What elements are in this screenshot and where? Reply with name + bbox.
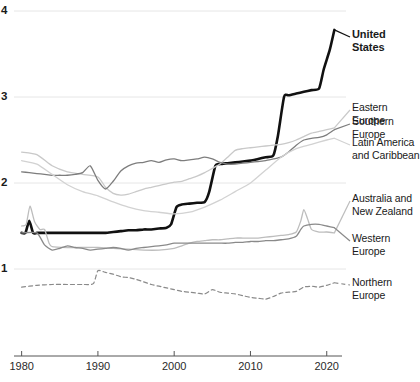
line-chart: 4321 19801990200020102020 United StatesE…: [0, 0, 420, 382]
series-label-united-states: United States: [352, 28, 386, 54]
series-label-australia-and-new-zealand: Australia and New Zealand: [352, 192, 413, 217]
chart-plot-area: [0, 0, 420, 382]
series-label-northern-europe: Northern Europe: [352, 276, 420, 301]
x-tick-label: 2000: [151, 361, 197, 372]
series-leader-line: [334, 138, 350, 145]
series-line-southern-europe: [22, 130, 335, 189]
series-line-latin-america-and-caribbean: [22, 138, 335, 214]
y-tick-label: 3: [1, 91, 7, 103]
series-lines: [22, 30, 350, 299]
y-tick-label: 2: [1, 177, 7, 189]
series-leader-line: [334, 228, 350, 241]
series-line-western-europe: [22, 224, 335, 250]
series-line-united-states: [22, 30, 335, 233]
y-tick-label: 1: [1, 263, 7, 275]
series-leader-line: [334, 201, 350, 233]
series-leader-line: [334, 30, 350, 37]
x-tick-label: 2010: [227, 361, 273, 372]
series-label-western-europe: Western Europe: [352, 232, 420, 257]
y-tick-label: 4: [1, 5, 7, 17]
x-tick-label: 1990: [75, 361, 121, 372]
series-label-latin-america-and-caribbean: Latin America and Caribbean: [352, 136, 420, 161]
x-axis: [14, 351, 342, 356]
series-line-northern-europe: [22, 270, 335, 299]
x-tick-label: 1980: [0, 361, 45, 372]
series-leader-line: [334, 283, 350, 285]
x-tick-label: 2020: [304, 361, 350, 372]
